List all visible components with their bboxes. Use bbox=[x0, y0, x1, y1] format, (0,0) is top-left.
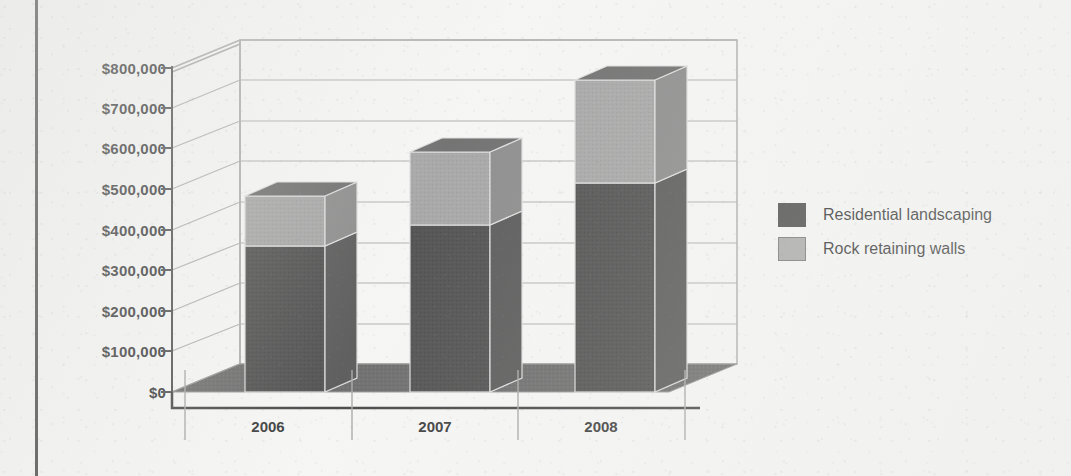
bar-segment-3d-right-2007-residential-landscaping bbox=[490, 211, 522, 392]
legend-item-residential-landscaping[interactable]: Residential landscaping bbox=[778, 198, 992, 232]
chart-page: $800,000 $700,000 $600,000 $500,000 $400… bbox=[0, 0, 1071, 476]
legend-item-rock-retaining-walls[interactable]: Rock retaining walls bbox=[778, 232, 992, 266]
document-margin-rule bbox=[35, 0, 38, 476]
bar-group-2007[interactable] bbox=[410, 138, 522, 392]
bar-segment-2008-residential-landscaping[interactable] bbox=[575, 183, 655, 392]
bar-segment-2007-residential-landscaping[interactable] bbox=[410, 225, 490, 392]
chart-legend: Residential landscaping Rock retaining w… bbox=[778, 198, 992, 266]
bar-segment-2006-rock-retaining-walls[interactable] bbox=[245, 196, 325, 246]
bar-segment-3d-right-2006-residential-landscaping bbox=[325, 232, 357, 392]
legend-label: Rock retaining walls bbox=[823, 240, 965, 258]
legend-swatch-icon bbox=[778, 237, 806, 261]
bar-group-2008[interactable] bbox=[575, 66, 687, 392]
bar-segment-3d-right-2008-rock-retaining-walls bbox=[655, 66, 687, 183]
bar-segment-2006-residential-landscaping[interactable] bbox=[245, 246, 325, 392]
legend-swatch-icon bbox=[778, 203, 806, 227]
bar-segment-3d-right-2007-rock-retaining-walls bbox=[490, 138, 522, 225]
legend-label: Residential landscaping bbox=[823, 206, 992, 224]
bar-segment-3d-right-2008-residential-landscaping bbox=[655, 169, 687, 392]
y-axis bbox=[161, 66, 172, 394]
bar-group-2006[interactable] bbox=[245, 182, 357, 392]
bar-segment-2007-rock-retaining-walls[interactable] bbox=[410, 152, 490, 225]
bar-segment-2008-rock-retaining-walls[interactable] bbox=[575, 80, 655, 183]
